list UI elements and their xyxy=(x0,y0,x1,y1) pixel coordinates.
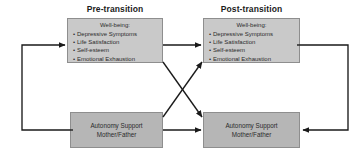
autonomy-support-line-2: Mother/Father xyxy=(97,130,137,139)
list-item: Depressive Symptoms xyxy=(209,30,299,38)
list-item: Depressive Symptoms xyxy=(73,30,162,38)
wellbeing-title: Well-being: xyxy=(204,19,299,29)
autonomy-support-label: Autonomy Support Mother/Father xyxy=(204,113,299,147)
list-item: Life Satisfaction xyxy=(73,38,162,46)
list-item: Life Satisfaction xyxy=(209,38,299,46)
autonomy-support-line-1: Autonomy Support xyxy=(225,121,277,130)
node-autonomy-support-pre-transition: Autonomy Support Mother/Father xyxy=(70,112,163,148)
list-item: Self-esteem xyxy=(73,46,162,54)
column-header-pre-transition: Pre-transition xyxy=(67,4,163,14)
node-wellbeing-pre-transition: Well-being: Depressive Symptoms Life Sat… xyxy=(67,18,163,63)
list-item: Emotional Exhaustion xyxy=(73,55,162,63)
autonomy-support-label: Autonomy Support Mother/Father xyxy=(71,113,162,147)
arrow-wellbeing-pre-to-autonomy-post xyxy=(163,62,202,117)
column-header-post-transition: Post-transition xyxy=(203,4,300,14)
autonomy-support-line-1: Autonomy Support xyxy=(90,121,142,130)
path-diagram: Pre-transition Post-transition Well-bein… xyxy=(0,0,363,157)
wellbeing-title: Well-being: xyxy=(68,19,162,29)
list-item: Self-esteem xyxy=(209,46,299,54)
wellbeing-indicator-list: Depressive Symptoms Life Satisfaction Se… xyxy=(68,29,162,63)
arrow-right-feedback-bracket-to-autonomy-post xyxy=(300,45,348,130)
wellbeing-indicator-list: Depressive Symptoms Life Satisfaction Se… xyxy=(204,29,299,63)
edge-layer xyxy=(0,0,363,157)
list-item: Emotional Exhaustion xyxy=(209,55,299,63)
arrow-autonomy-pre-to-wellbeing-post xyxy=(163,62,202,117)
autonomy-support-line-2: Mother/Father xyxy=(232,130,272,139)
node-autonomy-support-post-transition: Autonomy Support Mother/Father xyxy=(203,112,300,148)
arrow-left-feedback-bracket-to-wellbeing-pre xyxy=(22,45,70,130)
node-wellbeing-post-transition: Well-being: Depressive Symptoms Life Sat… xyxy=(203,18,300,63)
